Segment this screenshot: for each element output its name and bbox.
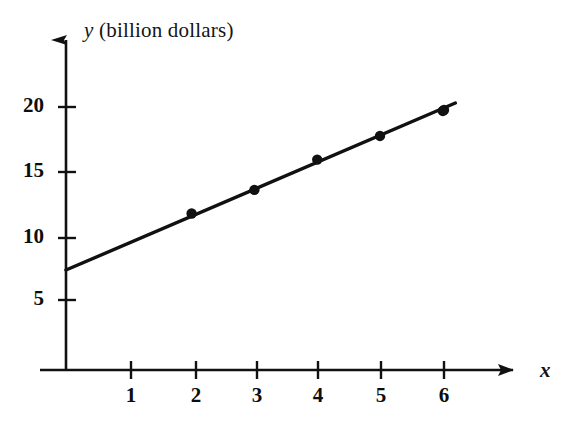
x-tick-label-1: 1 — [118, 383, 144, 408]
x-tick-label-5: 5 — [368, 383, 394, 408]
x-tick-label-4: 4 — [305, 383, 331, 408]
y-tick-label-15: 15 — [4, 158, 44, 183]
y-tick-label-5: 5 — [4, 286, 44, 311]
data-point-6 — [439, 105, 449, 115]
x-tick-label-2: 2 — [183, 383, 209, 408]
y-axis-title: y (billion dollars) — [84, 18, 234, 43]
y-axis-variable: y — [84, 18, 94, 42]
chart-figure: y (billion dollars) x 20 15 10 5 1 2 3 4… — [0, 0, 579, 426]
data-point-3 — [312, 154, 322, 164]
trend-line — [66, 103, 455, 270]
data-point-2 — [249, 185, 259, 195]
x-tick-label-6: 6 — [431, 383, 457, 408]
y-axis-unit: (billion dollars) — [99, 18, 234, 42]
data-point-4 — [375, 131, 385, 141]
x-tick-label-3: 3 — [244, 383, 270, 408]
y-tick-label-20: 20 — [4, 93, 44, 118]
y-tick-label-10: 10 — [4, 224, 44, 249]
data-point-1 — [186, 208, 196, 218]
x-axis-title: x — [540, 358, 551, 383]
plot-canvas — [0, 0, 579, 426]
